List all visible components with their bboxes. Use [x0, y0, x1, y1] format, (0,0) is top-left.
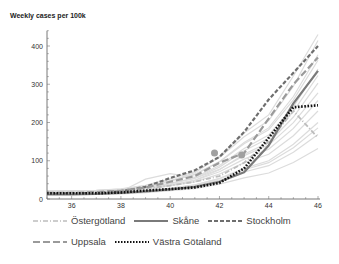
solid-line-icon [134, 218, 168, 224]
x-tick-label: 40 [166, 202, 174, 209]
legend-item-stockholm: Stockholm [208, 215, 290, 226]
legend-label: Stockholm [246, 215, 290, 226]
y-tick-label: 100 [31, 157, 43, 164]
y-tick-label: 300 [31, 81, 43, 88]
legend-label: Uppsala [71, 236, 106, 247]
legend-label: Skåne [172, 215, 199, 226]
legend-row-1: Östergötland Skåne Stockholm [33, 215, 300, 226]
x-tick-label: 36 [68, 202, 76, 209]
data-marker [211, 150, 218, 157]
background-line [47, 41, 318, 192]
dash-dot-line-icon [33, 218, 67, 224]
legend-label: Västra Götaland [153, 236, 222, 247]
legend-item-skane: Skåne [134, 215, 199, 226]
legend-item-uppsala: Uppsala [33, 236, 106, 247]
legend-item-vastra-gotaland: Västra Götaland [115, 236, 222, 247]
background-line [47, 55, 318, 192]
legend-label: Östergötland [71, 215, 125, 226]
background-line [47, 35, 318, 195]
legend-item-ostergotland: Östergötland [33, 215, 125, 226]
y-tick-label: 0 [39, 196, 43, 203]
background-region-lines [47, 35, 318, 195]
legend-row-2: Uppsala Västra Götaland [33, 236, 231, 247]
x-tick-label: 38 [117, 202, 125, 209]
x-tick-label: 42 [216, 202, 224, 209]
dashed-line-icon [208, 218, 242, 224]
dotted-line-icon [115, 239, 149, 245]
x-tick-label: 44 [265, 202, 273, 209]
x-tick-label: 46 [314, 202, 322, 209]
long-dash-line-icon [33, 239, 67, 245]
data-marker [238, 152, 245, 159]
background-line [47, 134, 318, 193]
y-tick-label: 200 [31, 119, 43, 126]
y-tick-label: 400 [31, 43, 43, 50]
